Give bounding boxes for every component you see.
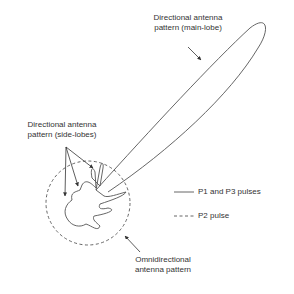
antenna-pattern-diagram	[0, 0, 294, 294]
omni-label-line2: antenna pattern	[118, 265, 208, 275]
main-lobe-label: Directional antenna pattern (main-lobe)	[133, 13, 243, 33]
legend-item-dashed: P2 pulse	[198, 211, 229, 221]
main-lobe-pattern	[96, 23, 266, 192]
side-lobe-arrow-3	[66, 147, 93, 168]
omnidirectional-pattern-circle	[46, 161, 130, 245]
side-lobes-label-line1: Directional antenna	[14, 120, 110, 130]
side-lobe-arrow-1	[65, 147, 66, 196]
main-lobe-arrow	[188, 47, 201, 60]
side-lobes-label: Directional antenna pattern (side-lobes)	[14, 120, 110, 140]
main-lobe-label-line2: pattern (main-lobe)	[133, 23, 243, 33]
legend-item-solid: P1 and P3 pulses	[198, 187, 261, 197]
omni-arrow	[125, 236, 140, 252]
omni-label: Omnidirectional antenna pattern	[118, 255, 208, 275]
side-lobes-label-line2: pattern (side-lobes)	[14, 130, 110, 140]
omni-label-line1: Omnidirectional	[118, 255, 208, 265]
main-lobe-label-line1: Directional antenna	[133, 13, 243, 23]
